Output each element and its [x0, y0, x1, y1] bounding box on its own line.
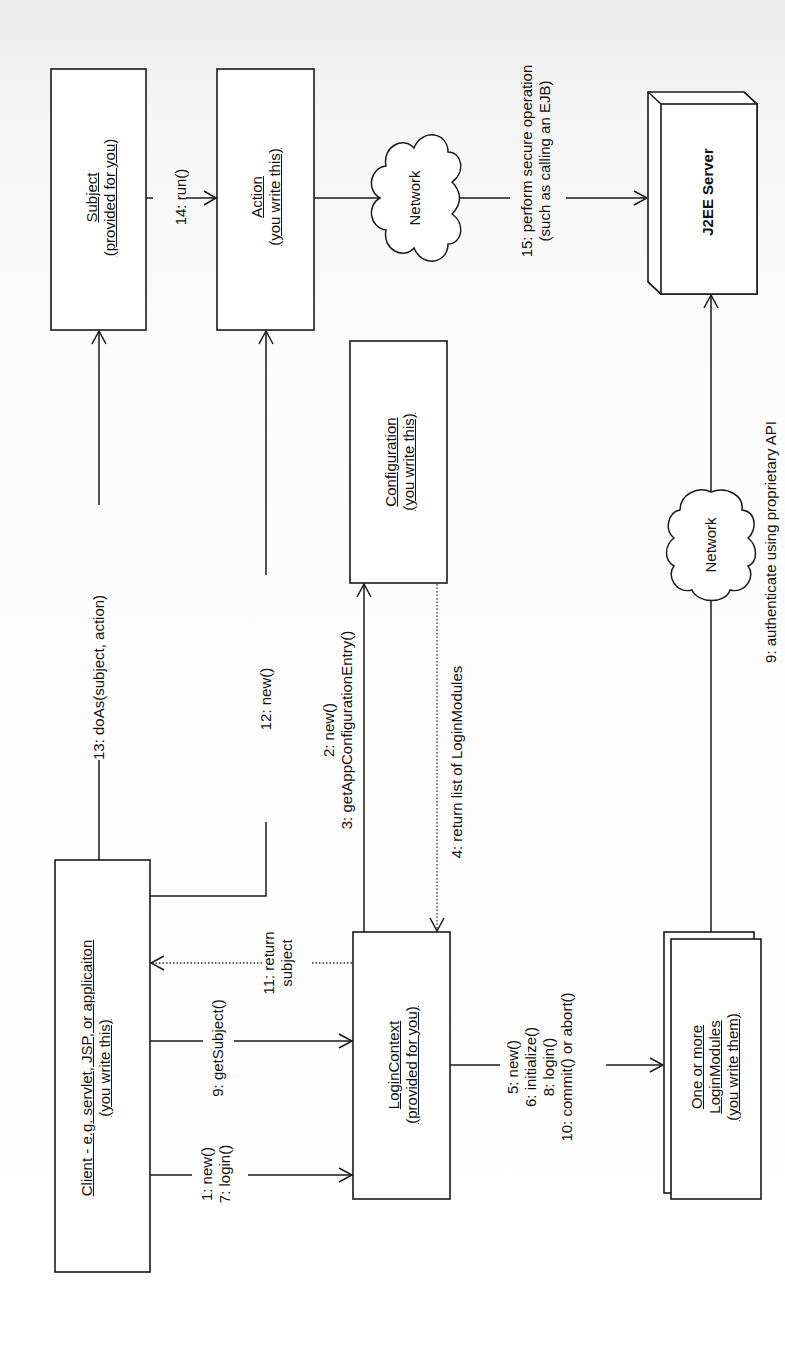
- action-name: Action: [248, 132, 266, 262]
- message-10-commit-abort: 10: commit() or abort(): [558, 962, 576, 1172]
- configuration-name: Configuration: [382, 387, 400, 537]
- message-2-3-label: 2: new() 3: getAppConfigurationEntry(): [320, 580, 356, 880]
- action-note: (you write this): [266, 132, 284, 262]
- message-15-label: 15: perform secure operation (such as ca…: [518, 0, 554, 322]
- message-7-login: 7: login(): [216, 1131, 234, 1217]
- message-14-run: 14: run(): [172, 154, 190, 240]
- login-context-name: LoginContext: [385, 980, 403, 1150]
- network-top-label: Network: [406, 158, 424, 238]
- login-context-note: (provided for you): [403, 980, 421, 1150]
- message-6-initialize: 6: initialize(): [522, 962, 540, 1172]
- message-15-line2: (such as calling an EJB): [536, 0, 554, 322]
- message-9-authenticate: 9: authenticate using proprietary API: [762, 412, 780, 672]
- message-1-new: 1: new(): [198, 1131, 216, 1217]
- client-name: Client - e.g. servlet, JSP, or applicait…: [78, 878, 96, 1258]
- subject-name: Subject: [83, 135, 101, 260]
- message-11-line1: 11: return: [260, 921, 278, 1005]
- login-modules-line1: One or more: [688, 992, 706, 1142]
- login-modules-note: (you write them): [724, 992, 742, 1142]
- configuration-note: (you write this): [400, 387, 418, 537]
- message-12-new: 12: new(): [257, 576, 275, 822]
- message-1-7-label: 1: new() 7: login(): [198, 1131, 234, 1217]
- login-modules-name: LoginModules: [706, 992, 724, 1142]
- subject-label: Subject (provided for you): [83, 135, 119, 260]
- message-11-line2: subject: [278, 921, 296, 1005]
- message-13-doas: 13: doAs(subject, action): [90, 505, 108, 760]
- message-11-return-subject: 11: return subject: [260, 921, 296, 1005]
- message-3-getappconfig: 3: getAppConfigurationEntry(): [338, 580, 356, 880]
- message-5-6-8-10-label: 5: new() 6: initialize() 8: login() 10: …: [504, 962, 576, 1172]
- message-2-new: 2: new(): [320, 580, 338, 880]
- message-9-getsubject: 9: getSubject(): [209, 983, 227, 1113]
- message-4-return-list: 4: return list of LoginModules: [448, 632, 466, 892]
- configuration-label: Configuration (you write this): [382, 387, 418, 537]
- login-modules-label: One or more LoginModules (you write them…: [688, 992, 742, 1142]
- network-right-label: Network: [702, 505, 720, 585]
- message-8-login: 8: login(): [540, 962, 558, 1172]
- login-context-label: LoginContext (provided for you): [385, 980, 421, 1150]
- client-note: (you write this): [96, 878, 114, 1258]
- client-label: Client - e.g. servlet, JSP, or applicait…: [78, 878, 114, 1258]
- message-5-new: 5: new(): [504, 962, 522, 1172]
- action-label: Action (you write this): [248, 132, 284, 262]
- subject-note: (provided for you): [101, 135, 119, 260]
- message-15-line1: 15: perform secure operation: [518, 0, 536, 322]
- j2ee-server-label: J2EE Server: [699, 122, 717, 262]
